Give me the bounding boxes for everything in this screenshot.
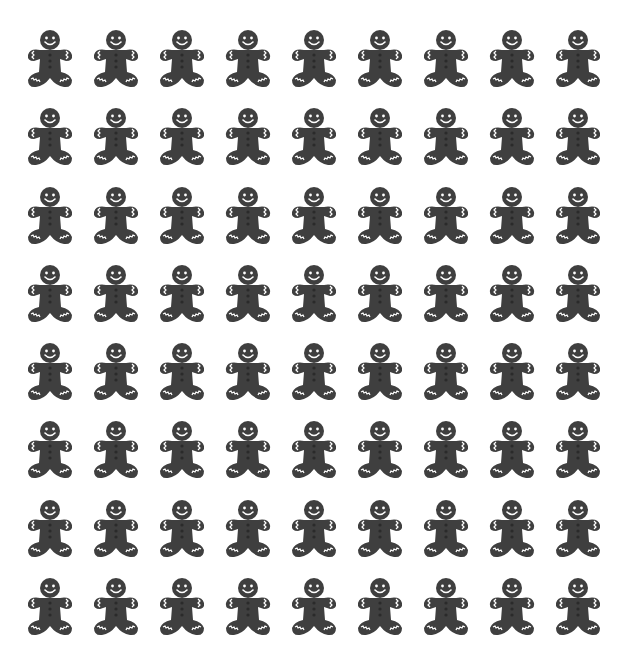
grid-cell [92, 28, 158, 106]
gingerbread-man-icon [422, 341, 470, 403]
grid-cell [158, 576, 224, 654]
gingerbread-man-icon [92, 28, 140, 90]
gingerbread-man-icon [554, 419, 602, 481]
gingerbread-man-icon [290, 498, 338, 560]
grid-cell [554, 419, 620, 497]
gingerbread-man-icon [290, 419, 338, 481]
grid-cell [224, 419, 290, 497]
grid-cell [554, 185, 620, 263]
grid-cell [26, 263, 92, 341]
gingerbread-man-icon [158, 341, 206, 403]
gingerbread-man-icon [26, 263, 74, 325]
grid-cell [26, 106, 92, 184]
grid-cell [356, 341, 422, 419]
gingerbread-man-icon [356, 341, 404, 403]
gingerbread-man-icon [356, 498, 404, 560]
gingerbread-man-icon [356, 576, 404, 638]
grid-cell [356, 263, 422, 341]
grid-cell [488, 576, 554, 654]
grid-cell [26, 185, 92, 263]
grid-cell [356, 419, 422, 497]
gingerbread-man-icon [224, 498, 272, 560]
grid-cell [488, 106, 554, 184]
grid-cell [26, 28, 92, 106]
gingerbread-man-icon [158, 498, 206, 560]
gingerbread-man-icon [290, 28, 338, 90]
grid-cell [224, 263, 290, 341]
grid-cell [422, 185, 488, 263]
grid-cell [422, 106, 488, 184]
gingerbread-man-icon [92, 341, 140, 403]
gingerbread-man-icon [92, 185, 140, 247]
gingerbread-man-icon [554, 498, 602, 560]
grid-cell [422, 498, 488, 576]
grid-cell [26, 419, 92, 497]
gingerbread-man-icon [158, 28, 206, 90]
gingerbread-man-icon [290, 341, 338, 403]
grid-cell [92, 263, 158, 341]
gingerbread-man-icon [290, 263, 338, 325]
gingerbread-man-icon [224, 419, 272, 481]
gingerbread-man-icon [26, 576, 74, 638]
grid-cell [92, 498, 158, 576]
gingerbread-man-icon [422, 576, 470, 638]
gingerbread-man-icon [158, 576, 206, 638]
gingerbread-man-icon [356, 419, 404, 481]
grid-cell [356, 185, 422, 263]
gingerbread-man-icon [488, 106, 536, 168]
gingerbread-man-icon [422, 28, 470, 90]
gingerbread-man-icon [488, 341, 536, 403]
gingerbread-man-icon [554, 185, 602, 247]
gingerbread-man-icon [356, 263, 404, 325]
gingerbread-man-icon [224, 263, 272, 325]
gingerbread-man-icon [488, 498, 536, 560]
gingerbread-man-icon [422, 498, 470, 560]
grid-cell [356, 498, 422, 576]
grid-cell [158, 419, 224, 497]
grid-cell [158, 263, 224, 341]
gingerbread-man-icon [422, 263, 470, 325]
gingerbread-man-icon [26, 185, 74, 247]
gingerbread-man-icon [224, 341, 272, 403]
gingerbread-man-icon [488, 419, 536, 481]
gingerbread-man-icon [422, 185, 470, 247]
grid-cell [92, 419, 158, 497]
gingerbread-man-icon [488, 263, 536, 325]
gingerbread-man-icon [554, 106, 602, 168]
grid-cell [92, 185, 158, 263]
gingerbread-man-icon [92, 263, 140, 325]
grid-cell [422, 263, 488, 341]
grid-cell [554, 498, 620, 576]
gingerbread-man-icon [92, 106, 140, 168]
grid-cell [290, 498, 356, 576]
grid-cell [488, 185, 554, 263]
grid-cell [554, 263, 620, 341]
gingerbread-man-icon [356, 28, 404, 90]
grid-cell [158, 341, 224, 419]
gingerbread-man-icon [26, 341, 74, 403]
gingerbread-man-icon [224, 106, 272, 168]
grid-cell [290, 263, 356, 341]
grid-cell [488, 498, 554, 576]
grid-cell [422, 576, 488, 654]
gingerbread-man-icon [26, 498, 74, 560]
gingerbread-man-icon [554, 576, 602, 638]
grid-cell [356, 106, 422, 184]
grid-cell [224, 498, 290, 576]
gingerbread-man-icon [92, 419, 140, 481]
grid-cell [488, 263, 554, 341]
gingerbread-man-icon [158, 419, 206, 481]
grid-cell [290, 341, 356, 419]
grid-cell [26, 576, 92, 654]
grid-cell [422, 28, 488, 106]
grid-cell [488, 28, 554, 106]
grid-cell [224, 576, 290, 654]
gingerbread-man-icon [356, 106, 404, 168]
gingerbread-man-icon [488, 185, 536, 247]
grid-cell [290, 28, 356, 106]
gingerbread-man-icon [158, 185, 206, 247]
grid-cell [224, 185, 290, 263]
gingerbread-man-icon [422, 106, 470, 168]
gingerbread-man-icon [554, 263, 602, 325]
gingerbread-man-icon [290, 185, 338, 247]
